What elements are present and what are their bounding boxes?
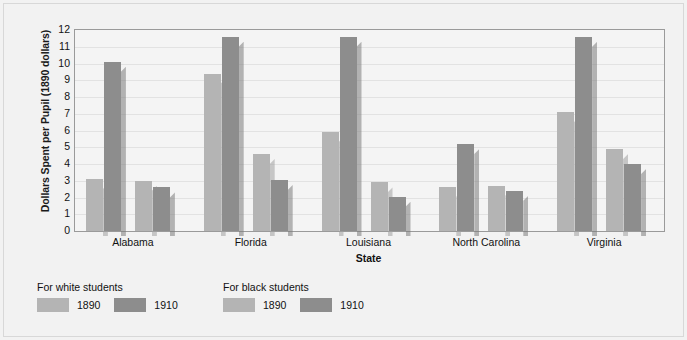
legend-item[interactable]: 1890 — [37, 298, 100, 312]
plot-inner — [75, 30, 664, 231]
bar-face — [371, 182, 388, 231]
bar[interactable] — [575, 37, 592, 231]
bar-face — [457, 144, 474, 231]
y-tick-label: 0 — [40, 225, 70, 235]
bar-face — [271, 180, 288, 231]
bar-face — [135, 181, 152, 231]
bar-group-louisiana — [322, 30, 406, 231]
legend-group-title: For black students — [223, 281, 378, 293]
legend-label: 1910 — [340, 299, 363, 311]
bar[interactable] — [624, 164, 641, 231]
bar[interactable] — [153, 187, 170, 231]
bar-group-alabama — [86, 30, 170, 231]
bar-shadow — [523, 196, 528, 236]
bar-face — [104, 62, 121, 231]
bar-face — [222, 37, 239, 231]
y-tick-label: 3 — [40, 175, 70, 185]
bar-shadow — [288, 185, 293, 236]
bar-face — [506, 191, 523, 231]
bar-face — [204, 74, 221, 231]
chart-page: Dollars Spent per Pupil (1890 dollars) 1… — [0, 0, 687, 340]
bar[interactable] — [271, 180, 288, 231]
legend-label: 1890 — [77, 299, 100, 311]
bar-face — [624, 164, 641, 231]
bar[interactable] — [606, 149, 623, 231]
legend-item[interactable]: 1910 — [300, 298, 363, 312]
y-tick-label: 4 — [40, 158, 70, 168]
legend-item[interactable]: 1890 — [223, 298, 286, 312]
legend-group: For white students18901910 — [37, 281, 192, 312]
bar[interactable] — [135, 181, 152, 231]
y-tick-label: 10 — [40, 58, 70, 68]
bar-group-virginia — [557, 30, 641, 231]
bar[interactable] — [439, 187, 456, 231]
y-tick-label: 2 — [40, 192, 70, 202]
legend-swatch — [300, 298, 332, 312]
bar[interactable] — [488, 186, 505, 231]
bar[interactable] — [104, 62, 121, 231]
plot-area — [74, 29, 665, 232]
legend-row: 18901910 — [37, 298, 192, 312]
legend-label: 1910 — [154, 299, 177, 311]
y-tick-label: 7 — [40, 108, 70, 118]
bar-shadow — [474, 149, 479, 236]
x-tick-label: North Carolina — [426, 236, 546, 248]
legend-swatch — [114, 298, 146, 312]
y-tick-label: 9 — [40, 74, 70, 84]
bar-face — [488, 186, 505, 231]
bar-shadow — [641, 169, 646, 236]
bar[interactable] — [253, 154, 270, 231]
bar-shadow — [592, 42, 597, 236]
bar-face — [575, 37, 592, 231]
x-tick-label: Florida — [191, 236, 311, 248]
bar[interactable] — [86, 179, 103, 231]
bar-face — [606, 149, 623, 231]
bar-face — [439, 187, 456, 231]
y-tick-label: 5 — [40, 141, 70, 151]
bar-shadow — [357, 42, 362, 236]
x-axis-title: State — [74, 252, 663, 264]
legend-swatch — [37, 298, 69, 312]
bar-face — [253, 154, 270, 231]
legend-label: 1890 — [263, 299, 286, 311]
legend-group-title: For white students — [37, 281, 192, 293]
chart-legend: For white students18901910For black stud… — [37, 281, 437, 326]
bar-face — [153, 187, 170, 231]
y-tick-label: 12 — [40, 24, 70, 34]
bar[interactable] — [204, 74, 221, 231]
bar-shadow — [406, 202, 411, 236]
bar-face — [322, 132, 339, 231]
y-tick-label: 6 — [40, 125, 70, 135]
bar-group-north-carolina — [439, 30, 523, 231]
legend-item[interactable]: 1910 — [114, 298, 177, 312]
x-tick-label: Louisiana — [309, 236, 429, 248]
y-tick-label: 1 — [40, 208, 70, 218]
x-tick-label: Virginia — [544, 236, 664, 248]
legend-row: 18901910 — [223, 298, 378, 312]
bar-face — [86, 179, 103, 231]
bar[interactable] — [340, 37, 357, 231]
bar[interactable] — [371, 182, 388, 231]
bar-face — [389, 197, 406, 231]
bar[interactable] — [506, 191, 523, 231]
y-tick-label: 8 — [40, 91, 70, 101]
legend-swatch — [223, 298, 255, 312]
bar[interactable] — [457, 144, 474, 231]
bar-group-florida — [204, 30, 288, 231]
bar[interactable] — [322, 132, 339, 231]
bar[interactable] — [557, 112, 574, 231]
bar[interactable] — [389, 197, 406, 231]
bar-shadow — [121, 67, 126, 236]
y-tick-label: 11 — [40, 41, 70, 51]
bar-face — [340, 37, 357, 231]
legend-group: For black students18901910 — [223, 281, 378, 312]
bar[interactable] — [222, 37, 239, 231]
bar-face — [557, 112, 574, 231]
bar-shadow — [239, 42, 244, 236]
x-tick-label: Alabama — [73, 236, 193, 248]
bar-shadow — [170, 192, 175, 236]
